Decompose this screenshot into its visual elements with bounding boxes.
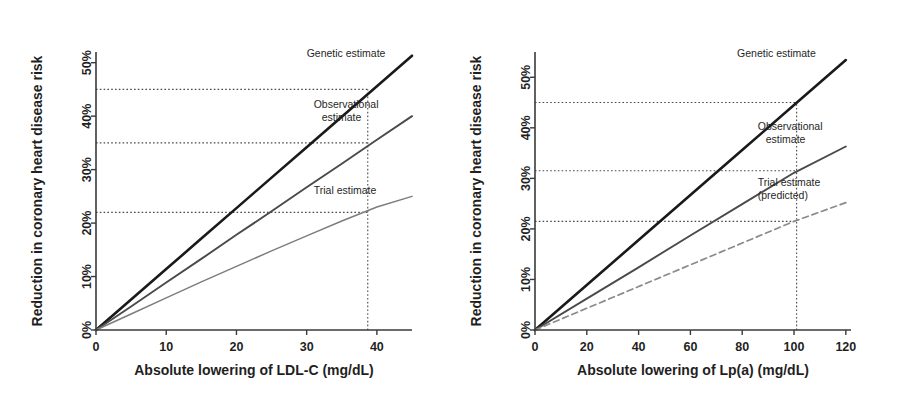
y-tick-label-2: 20% (80, 211, 94, 236)
x-tick-label-0: 0 (532, 340, 539, 354)
x-axis-title: Absolute lowering of LDL-C (mg/dL) (134, 362, 374, 378)
y-tick-label-0: 0% (519, 321, 533, 339)
annotation-trial-estimate: Trial estimate (314, 184, 377, 196)
annotations: Genetic estimateObservationalestimateTri… (737, 47, 823, 201)
series-line-observational-estimate (535, 147, 846, 330)
annotation-observational-estimate-line1: Observational (314, 98, 379, 110)
x-tick-label-2: 40 (632, 340, 646, 354)
annotation-genetic-estimate: Genetic estimate (307, 47, 386, 59)
x-axis-title: Absolute lowering of Lp(a) (mg/dL) (577, 362, 809, 378)
x-tick-label-0: 0 (93, 340, 100, 354)
x-tick-label-1: 10 (159, 340, 173, 354)
y-tick-label-1: 10% (519, 267, 533, 292)
x-tick-label-4: 80 (735, 340, 749, 354)
x-tick-label-4: 40 (370, 340, 384, 354)
y-tick-label-1: 10% (80, 264, 94, 289)
y-tick-label-4: 40% (519, 115, 533, 140)
chart-lpa: 0%10%20%30%40%50%020406080100120Absolute… (459, 0, 918, 416)
x-tick-label-1: 20 (580, 340, 594, 354)
annotation-genetic-estimate: Genetic estimate (737, 47, 816, 59)
x-tick-label-3: 60 (683, 340, 697, 354)
y-tick-label-3: 30% (519, 166, 533, 191)
annotation-observational-estimate-line1: Observational (758, 120, 823, 132)
y-axis-ticks: 0%10%20%30%40%50% (80, 50, 96, 339)
y-tick-label-4: 40% (80, 104, 94, 129)
annotation-observational-estimate-line2: estimate (322, 111, 362, 123)
x-tick-label-5: 100 (784, 340, 805, 354)
y-tick-label-0: 0% (80, 321, 94, 339)
plot-area: 0%10%20%30%40%50%020406080100120 (519, 52, 856, 354)
series-line-observational-estimate (96, 116, 412, 330)
y-tick-label-2: 20% (519, 216, 533, 241)
y-tick-label-5: 50% (519, 65, 533, 90)
panel-lpa: 0%10%20%30%40%50%020406080100120Absolute… (459, 0, 918, 416)
plot-area: 0%10%20%30%40%50%010203040 (80, 50, 412, 354)
x-tick-label-6: 120 (835, 340, 856, 354)
annotations: Genetic estimateObservationalestimateTri… (307, 47, 386, 195)
panel-ldl-c: 0%10%20%30%40%50%010203040Absolute lower… (0, 0, 459, 416)
figure-container: 0%10%20%30%40%50%010203040Absolute lower… (0, 0, 918, 416)
x-tick-label-2: 20 (229, 340, 243, 354)
x-tick-label-3: 30 (300, 340, 314, 354)
y-axis-title: Reduction in coronary heart disease risk (468, 55, 484, 326)
annotation-observational-estimate-line2: estimate (766, 133, 806, 145)
chart-ldl-c: 0%10%20%30%40%50%010203040Absolute lower… (0, 0, 459, 416)
x-axis-ticks: 010203040 (93, 330, 384, 354)
series-line-trial-estimate (96, 196, 412, 330)
annotation-trial-estimate-predicted-line2: (predicted) (758, 189, 808, 201)
y-tick-label-3: 30% (80, 157, 94, 182)
y-axis-ticks: 0%10%20%30%40%50% (519, 65, 535, 339)
x-axis-ticks: 020406080100120 (532, 330, 857, 354)
y-axis-title: Reduction in coronary heart disease risk (29, 55, 45, 326)
annotation-trial-estimate-predicted-line1: Trial estimate (758, 176, 821, 188)
y-tick-label-5: 50% (80, 50, 94, 75)
